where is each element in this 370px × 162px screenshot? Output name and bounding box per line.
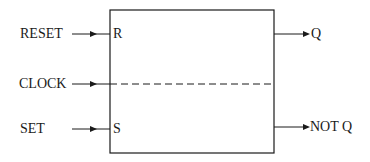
notq-arrow-icon [303, 124, 310, 130]
set-label: SET [20, 122, 45, 136]
s-pin-label: S [113, 122, 121, 136]
clock-label: CLOCK [19, 77, 66, 91]
clock-arrow-icon [90, 81, 97, 87]
q-label: Q [311, 27, 321, 41]
reset-label: RESET [20, 27, 63, 41]
q-arrow-icon [303, 31, 310, 37]
r-pin-label: R [113, 27, 122, 41]
notq-label: NOT Q [310, 120, 352, 134]
set-arrow-icon [90, 126, 97, 132]
flip-flop-box [110, 10, 274, 153]
reset-arrow-icon [90, 31, 97, 37]
